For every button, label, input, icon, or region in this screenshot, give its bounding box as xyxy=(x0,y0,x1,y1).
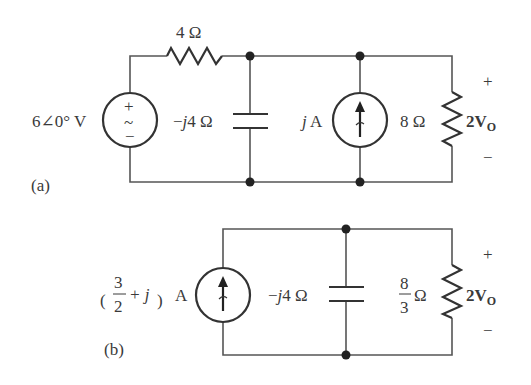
vo-b-plus: + xyxy=(483,245,493,264)
paren-close: ) xyxy=(157,291,163,310)
panel-label-b: (b) xyxy=(104,340,124,359)
node-a-3 xyxy=(356,52,365,61)
plus-j: + j xyxy=(129,285,150,304)
resistor-4ohm-icon xyxy=(167,48,222,64)
vo-b-minus: − xyxy=(483,321,493,340)
arrowhead-b-icon xyxy=(218,276,228,287)
label-cap-a: −j4 Ω xyxy=(173,112,213,131)
label-isrc-a: j A xyxy=(300,112,323,131)
unit-ohm: Ω xyxy=(414,286,427,305)
frac-num: 3 xyxy=(114,273,123,292)
resistor-8-3ohm-icon xyxy=(443,265,461,318)
label-isrc-b: ( 3 2 + j ) A xyxy=(100,273,188,316)
wire-a-top-left xyxy=(130,56,167,93)
label-4ohm: 4 Ω xyxy=(176,23,201,42)
wire-a-bottom xyxy=(130,146,452,182)
node-b-2 xyxy=(342,351,351,360)
vo-a-minus: − xyxy=(483,148,493,167)
node-a-2 xyxy=(246,178,255,187)
circuit-a: 4 Ω 6∠0° V + ~ − −j4 Ω j A 8 Ω 2VO + − (… xyxy=(31,23,496,195)
paren-open: ( xyxy=(100,291,106,310)
wire-a-top-right xyxy=(222,56,452,92)
node-a-1 xyxy=(246,52,255,61)
resistor-8ohm-icon xyxy=(443,92,461,146)
label-vsource: 6∠0° V xyxy=(32,112,87,131)
label-cap-b: −j4 Ω xyxy=(268,286,308,305)
unit-amp: A xyxy=(175,286,188,305)
label-8-3ohm: 8 3 Ω xyxy=(399,274,427,317)
label-vo-a: 2VO xyxy=(466,112,496,134)
circuit-figure: 4 Ω 6∠0° V + ~ − −j4 Ω j A 8 Ω 2VO + − (… xyxy=(0,0,531,385)
node-a-4 xyxy=(356,178,365,187)
frac-den: 2 xyxy=(114,297,123,316)
label-8ohm: 8 Ω xyxy=(400,112,425,131)
vo-a-plus: + xyxy=(483,72,493,91)
panel-label-a: (a) xyxy=(31,176,50,195)
frac-8: 8 xyxy=(400,274,409,293)
arrowhead-a-icon xyxy=(355,101,365,112)
node-b-1 xyxy=(342,225,351,234)
label-vo-b: 2VO xyxy=(466,286,496,308)
vsource-minus: − xyxy=(125,127,135,146)
frac-3: 3 xyxy=(400,298,409,317)
circuit-b: ( 3 2 + j ) A −j4 Ω 8 3 Ω 2VO + − (b) xyxy=(100,225,496,360)
